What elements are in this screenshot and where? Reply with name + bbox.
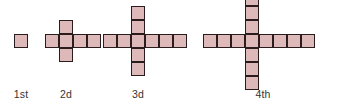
figure-cell <box>231 34 245 48</box>
figure-cell <box>245 20 259 34</box>
figure-cell <box>245 62 259 76</box>
figure-cell <box>245 6 259 20</box>
figure-sequence-diagram: 1st2d3d4th <box>0 0 346 103</box>
figure-cell <box>245 48 259 62</box>
figure-cell <box>245 34 259 48</box>
figure-item: 4th <box>0 0 346 103</box>
figure-cell <box>203 34 217 48</box>
figure-canvas: 1st2d3d4th <box>0 0 346 103</box>
figure-cell <box>259 34 273 48</box>
figure-cell <box>287 34 301 48</box>
figure-cell <box>273 34 287 48</box>
figure-cell <box>301 34 315 48</box>
figure-label: 4th <box>233 88 293 100</box>
figure-cell <box>217 34 231 48</box>
